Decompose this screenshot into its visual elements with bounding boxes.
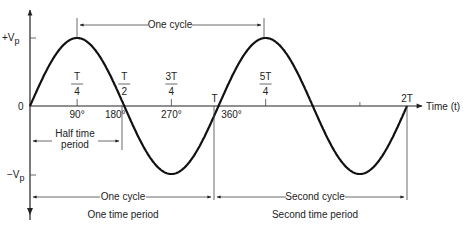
degree-label: 270°: [161, 109, 182, 120]
y-axis-down-arrow: [27, 208, 33, 215]
time-tick: T4: [71, 71, 83, 106]
time-tick: 5T4: [260, 71, 272, 106]
degree-label: 360°: [221, 109, 242, 120]
degree-label: 90°: [70, 109, 85, 120]
time-tick-numerator: 5T: [260, 71, 272, 82]
sine-wave-diagram: +Vp 0 −Vp Time (t) T4T23T4T5T42T 90°180°…: [0, 0, 467, 226]
second-cycle-label: Second cycle: [285, 191, 345, 202]
half-period-label-2: period: [61, 139, 89, 150]
time-tick-label: T: [211, 93, 217, 104]
time-tick-denominator: 4: [169, 86, 175, 97]
time-tick: T2: [118, 71, 130, 97]
time-tick-numerator: T: [121, 71, 127, 82]
half-period-label-1: Half time: [55, 128, 95, 139]
second-period-label: Second time period: [272, 209, 358, 220]
x-axis-label: Time (t): [426, 101, 460, 112]
time-tick: 3T4: [165, 71, 177, 106]
zero-label: 0: [18, 101, 24, 112]
time-tick-denominator: 4: [74, 86, 80, 97]
pos-peak-label: +Vp: [2, 32, 20, 46]
time-tick-numerator: 3T: [166, 71, 178, 82]
time-tick-denominator: 2: [121, 86, 127, 97]
first-cycle-label: One cycle: [101, 191, 146, 202]
time-tick-denominator: 4: [263, 86, 269, 97]
time-tick: T: [211, 93, 217, 104]
top-cycle-label: One cycle: [148, 19, 193, 30]
neg-peak-label: −Vp: [7, 169, 25, 183]
time-tick: 2T: [401, 93, 413, 104]
first-period-label: One time period: [87, 209, 158, 220]
time-tick-numerator: T: [74, 71, 80, 82]
degree-label: 180°: [105, 109, 126, 120]
time-tick-label: 2T: [401, 93, 413, 104]
